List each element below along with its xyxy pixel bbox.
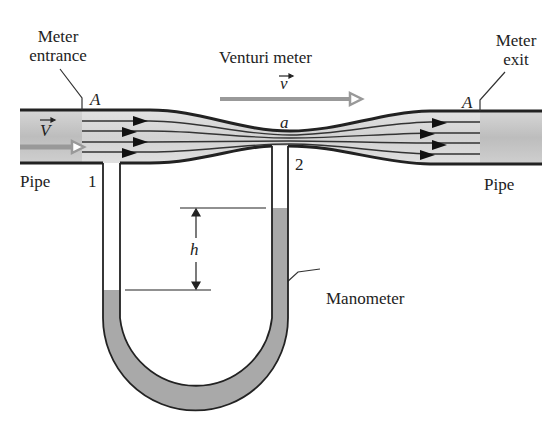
meter-exit-line-2: exit	[486, 50, 546, 69]
height-label: h	[190, 240, 199, 259]
velocity-throat-label: v	[280, 74, 288, 93]
meter-entrance-label: Meter entrance	[8, 27, 108, 65]
point-1-label: 1	[88, 172, 97, 191]
velocity-arrow-throat	[220, 93, 362, 105]
pipe-left-label: Pipe	[20, 172, 50, 191]
meter-entrance-line-1: Meter	[8, 27, 108, 46]
manometer-fluid	[103, 208, 288, 410]
venturi-meter-label: Venturi meter	[219, 48, 312, 67]
meter-exit-label: Meter exit	[486, 31, 546, 69]
area-exit-label: A	[462, 93, 472, 112]
meter-entrance-line-2: entrance	[8, 46, 108, 65]
area-entrance-label: A	[90, 90, 100, 109]
pipe-right	[480, 111, 542, 164]
manometer-label: Manometer	[326, 289, 404, 308]
velocity-pipe-label: V	[40, 121, 50, 140]
point-2-label: 2	[295, 155, 304, 174]
pipe-right-label: Pipe	[484, 175, 514, 194]
area-throat-label: a	[280, 113, 289, 132]
meter-exit-line-1: Meter	[486, 31, 546, 50]
